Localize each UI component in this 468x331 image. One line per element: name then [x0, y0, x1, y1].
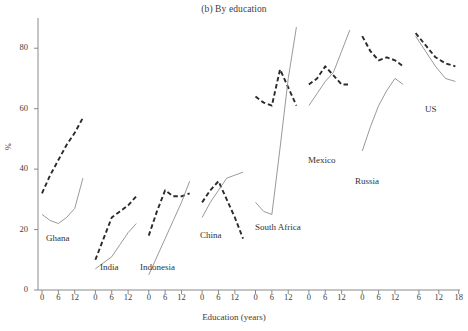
series-line-mexico-dashed	[309, 66, 350, 84]
series-line-ghana-dashed	[42, 118, 83, 194]
x-tick-label: 12	[388, 292, 402, 302]
x-tick-label: 6	[51, 292, 65, 302]
series-group	[42, 27, 455, 275]
x-tick-label: 0	[249, 292, 263, 302]
series-line-south-africa-solid	[256, 27, 297, 214]
country-label-south-africa: South Africa	[255, 222, 301, 232]
x-tick-label: 12	[121, 292, 135, 302]
x-tick-label: 0	[35, 292, 49, 302]
country-label-russia: Russia	[355, 176, 379, 186]
country-label-indonesia: Indonesia	[140, 262, 175, 272]
x-tick-label: 6	[211, 292, 225, 302]
x-tick-label: 12	[68, 292, 82, 302]
chart-figure: (b) By education % Education (years) 020…	[0, 0, 468, 331]
series-line-us-dashed	[416, 33, 456, 66]
x-tick-label: 6	[265, 292, 279, 302]
y-tick-label: 80	[8, 42, 28, 52]
x-tick-label: 0	[88, 292, 102, 302]
series-line-russia-dashed	[362, 36, 403, 66]
country-label-china: China	[200, 230, 222, 240]
country-label-ghana: Ghana	[46, 233, 70, 243]
x-tick-label: 12	[174, 292, 188, 302]
x-tick-label: 6	[158, 292, 172, 302]
country-label-india: India	[100, 262, 119, 272]
x-tick-label: 18	[452, 292, 466, 302]
y-tick-label: 20	[8, 224, 28, 234]
x-tick-label: 12	[281, 292, 295, 302]
country-label-mexico: Mexico	[308, 155, 336, 165]
x-tick-label: 12	[335, 292, 349, 302]
x-tick-label: 12	[432, 292, 446, 302]
x-tick-label: 0	[195, 292, 209, 302]
x-tick-label: 6	[318, 292, 332, 302]
x-tick-label: 6	[105, 292, 119, 302]
x-tick-label: 0	[355, 292, 369, 302]
y-tick-label: 40	[8, 163, 28, 173]
x-tick-label: 0	[302, 292, 316, 302]
y-tick-label: 60	[8, 103, 28, 113]
x-tick-label: 0	[142, 292, 156, 302]
x-tick-label: 6	[372, 292, 386, 302]
series-line-south-africa-dashed	[256, 69, 297, 105]
x-tick-label: 12	[228, 292, 242, 302]
series-line-ghana-solid	[42, 178, 83, 223]
series-line-us-solid	[416, 36, 456, 81]
x-tick-label: 6	[412, 292, 426, 302]
country-label-us: US	[425, 104, 437, 114]
y-tick-label: 0	[8, 284, 28, 294]
series-line-russia-solid	[362, 78, 403, 151]
series-line-mexico-solid	[309, 30, 350, 106]
chart-plot-area	[0, 0, 468, 331]
